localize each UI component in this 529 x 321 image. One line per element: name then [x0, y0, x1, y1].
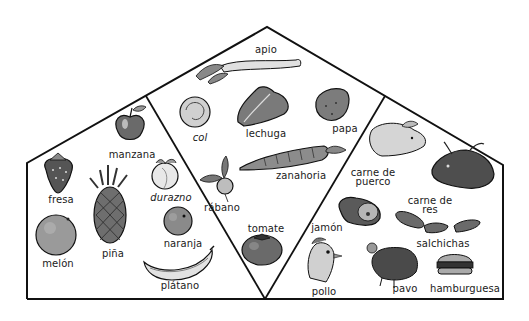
potato-icon [316, 89, 349, 121]
label-zanahoria: zanahoria [276, 171, 326, 181]
lettuce-icon [238, 87, 288, 126]
hamburger-icon [437, 255, 473, 275]
ham-icon [339, 198, 380, 226]
melon-icon [36, 215, 76, 255]
pineapple-icon [90, 165, 127, 243]
turkey-icon [367, 243, 417, 288]
chicken-icon [308, 238, 342, 282]
tomato-icon [242, 234, 282, 265]
label-pollo: pollo [312, 287, 337, 297]
label-jamon: jamón [311, 223, 343, 233]
label-manzana: manzana [109, 150, 156, 160]
label-papa: papa [332, 124, 357, 134]
orange-icon [164, 207, 192, 235]
banana-icon [144, 246, 214, 280]
label-naranja: naranja [164, 239, 203, 249]
label-platano: plátano [161, 281, 199, 291]
label-lechuga: lechuga [246, 129, 286, 139]
label-col: col [193, 133, 208, 143]
label-tomate: tomate [248, 224, 285, 234]
pig-icon [370, 121, 426, 156]
label-hamburguesa: hamburguesa [430, 284, 500, 294]
label-carne-de-res-2: res [422, 205, 438, 215]
label-pina: piña [102, 249, 124, 259]
food-house-diagram: manzana fresa durazno melón piña naranja… [0, 0, 529, 321]
celery-icon [196, 59, 301, 84]
sausages-icon [396, 212, 480, 233]
label-pavo: pavo [393, 284, 418, 294]
strawberry-icon [45, 153, 73, 193]
label-melon: melón [42, 259, 74, 269]
cabbage-icon [180, 97, 210, 127]
label-apio: apio [255, 45, 277, 55]
peach-icon [152, 159, 178, 189]
label-rabano: rábano [204, 203, 240, 213]
label-carne-de-puerco-2: puerco [356, 177, 391, 187]
label-durazno: durazno [150, 193, 191, 203]
label-salchichas: salchichas [417, 239, 470, 249]
carrot-icon [240, 146, 346, 170]
label-fresa: fresa [48, 195, 73, 205]
cow-icon [432, 142, 494, 188]
